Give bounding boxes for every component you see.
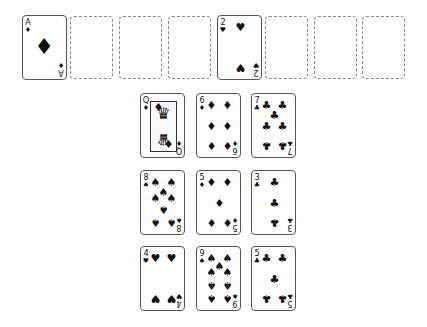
diamonds-icon: ♦ bbox=[153, 102, 164, 113]
clubs-icon: ♣ bbox=[269, 274, 280, 285]
diamonds-icon: ♦ bbox=[222, 100, 233, 111]
diamonds-icon: ♦ bbox=[57, 61, 65, 69]
diamonds-icon: ♦ bbox=[198, 181, 206, 189]
empty-card-slot[interactable] bbox=[119, 16, 162, 79]
card-index: 5♣ bbox=[253, 249, 261, 265]
rank-label: A bbox=[24, 18, 32, 26]
hearts-icon: ♥ bbox=[142, 257, 150, 265]
hearts-icon: ♥ bbox=[166, 293, 177, 304]
rank-label: 5 bbox=[253, 249, 261, 257]
clubs-icon: ♣ bbox=[269, 177, 280, 188]
rank-label: 3 bbox=[286, 224, 294, 232]
card-index: 8♠ bbox=[142, 173, 150, 189]
hearts-icon: ♥ bbox=[219, 26, 227, 34]
hearts-icon: ♥ bbox=[235, 62, 246, 73]
clubs-icon: ♣ bbox=[286, 216, 294, 224]
spades-icon: ♠ bbox=[158, 204, 169, 215]
diamonds-icon: ♦ bbox=[206, 100, 217, 111]
hearts-icon: ♥ bbox=[150, 293, 161, 304]
spades-icon: ♠ bbox=[206, 293, 217, 304]
spades-icon: ♠ bbox=[222, 267, 233, 278]
empty-card-slot[interactable] bbox=[70, 16, 113, 79]
clubs-icon: ♣ bbox=[269, 198, 280, 209]
diamonds-icon: ♦ bbox=[214, 198, 225, 209]
card-index: 7♣ bbox=[253, 96, 261, 112]
diamonds-icon: ♦ bbox=[206, 140, 217, 151]
diamonds-icon: ♦ bbox=[222, 177, 233, 188]
card-index: 2♥ bbox=[252, 61, 260, 77]
diamonds-icon: ♦ bbox=[206, 177, 217, 188]
spades-icon: ♠ bbox=[142, 181, 150, 189]
spades-icon: ♠ bbox=[166, 217, 177, 228]
rank-label: 4 bbox=[142, 249, 150, 257]
rank-label: 6 bbox=[198, 96, 206, 104]
card-index: 4♥ bbox=[142, 249, 150, 265]
spades-icon: ♠ bbox=[198, 257, 206, 265]
rank-label: 7 bbox=[253, 96, 261, 104]
hearts-icon: ♥ bbox=[166, 253, 177, 264]
clubs-icon: ♣ bbox=[277, 293, 288, 304]
diamonds-icon: ♦ bbox=[142, 104, 150, 112]
empty-card-slot[interactable] bbox=[314, 16, 357, 79]
card-8-of-spades[interactable]: 8♠8♠♠♠♠♠♠♠♠♠ bbox=[140, 170, 185, 235]
spades-icon: ♠ bbox=[206, 267, 217, 278]
card-index: 3♣ bbox=[286, 216, 294, 232]
clubs-icon: ♣ bbox=[253, 257, 261, 265]
card-index: 6♦ bbox=[198, 96, 206, 112]
card-index: 2♥ bbox=[219, 18, 227, 34]
card-5-of-clubs[interactable]: 5♣5♣♣♣♣♣♣ bbox=[251, 246, 296, 311]
clubs-icon: ♣ bbox=[277, 140, 288, 151]
rank-label: 2 bbox=[252, 69, 260, 77]
card-index: 5♦ bbox=[198, 173, 206, 189]
diamonds-icon: ♦ bbox=[222, 121, 233, 132]
rank-label: 2 bbox=[219, 18, 227, 26]
rank-label: 8 bbox=[142, 173, 150, 181]
card-index: 3♣ bbox=[253, 173, 261, 189]
clubs-icon: ♣ bbox=[261, 121, 272, 132]
clubs-icon: ♣ bbox=[253, 104, 261, 112]
spades-icon: ♠ bbox=[206, 280, 217, 291]
card-index: Q♦ bbox=[142, 96, 150, 112]
rank-label: 9 bbox=[198, 249, 206, 257]
card-index: A♦ bbox=[24, 18, 32, 34]
clubs-icon: ♣ bbox=[261, 293, 272, 304]
clubs-icon: ♣ bbox=[277, 253, 288, 264]
diamonds-icon: ♦ bbox=[206, 217, 217, 228]
diamonds-icon: ♦ bbox=[24, 26, 32, 34]
empty-card-slot[interactable] bbox=[362, 16, 405, 79]
spades-icon: ♠ bbox=[150, 217, 161, 228]
diamonds-icon: ♦ bbox=[222, 217, 233, 228]
empty-card-slot[interactable] bbox=[168, 16, 211, 79]
card-q-of-diamonds[interactable]: Q♦Q♦♛♛♦♦ bbox=[140, 93, 185, 158]
card-4-of-hearts[interactable]: 4♥4♥♥♥♥♥ bbox=[140, 246, 185, 311]
clubs-icon: ♣ bbox=[261, 253, 272, 264]
empty-card-slot[interactable] bbox=[265, 16, 308, 79]
card-index: 9♠ bbox=[198, 249, 206, 265]
rank-label: 3 bbox=[253, 173, 261, 181]
card-a-of-diamonds[interactable]: A♦A♦♦ bbox=[22, 15, 67, 80]
card-9-of-spades[interactable]: 9♠9♠♠♠♠♠♠♠♠♠♠ bbox=[196, 246, 241, 311]
hearts-icon: ♥ bbox=[252, 61, 260, 69]
spades-icon: ♠ bbox=[222, 293, 233, 304]
card-3-of-clubs[interactable]: 3♣3♣♣♣♣ bbox=[251, 170, 296, 235]
card-5-of-diamonds[interactable]: 5♦5♦♦♦♦♦♦ bbox=[196, 170, 241, 235]
hearts-icon: ♥ bbox=[150, 253, 161, 264]
clubs-icon: ♣ bbox=[269, 217, 280, 228]
card-7-of-clubs[interactable]: 7♣7♣♣♣♣♣♣♣♣ bbox=[251, 93, 296, 158]
diamonds-icon: ♦ bbox=[33, 36, 55, 58]
rank-label: 5 bbox=[198, 173, 206, 181]
card-index: A♦ bbox=[57, 61, 65, 77]
rank-label: Q bbox=[142, 96, 150, 104]
clubs-icon: ♣ bbox=[253, 181, 261, 189]
clubs-icon: ♣ bbox=[277, 121, 288, 132]
diamonds-icon: ♦ bbox=[198, 104, 206, 112]
diamonds-icon: ♦ bbox=[206, 121, 217, 132]
rank-label: A bbox=[57, 69, 65, 77]
diamonds-icon: ♦ bbox=[163, 138, 174, 149]
diamonds-icon: ♦ bbox=[222, 140, 233, 151]
spades-icon: ♠ bbox=[222, 280, 233, 291]
clubs-icon: ♣ bbox=[261, 140, 272, 151]
hearts-icon: ♥ bbox=[235, 22, 246, 33]
card-6-of-diamonds[interactable]: 6♦6♦♦♦♦♦♦♦ bbox=[196, 93, 241, 158]
card-2-of-hearts[interactable]: 2♥2♥♥♥ bbox=[217, 15, 262, 80]
